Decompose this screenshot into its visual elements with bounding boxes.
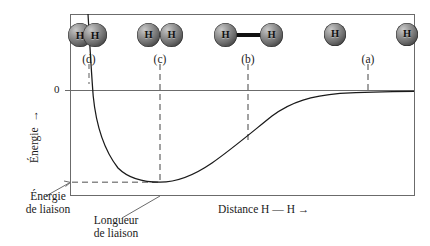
- y-axis-title: Énergie →: [28, 110, 41, 163]
- hydrogen-atom-icon: H: [396, 23, 418, 46]
- y-axis-zero-label: 0: [54, 83, 60, 96]
- atom-symbol: H: [221, 30, 229, 41]
- hydrogen-atom-icon: H: [324, 23, 346, 46]
- hydrogen-atom-icon: H: [160, 23, 183, 47]
- state-label-a: (a): [353, 53, 383, 66]
- figure-root: Énergie → 0 Distance H — H → Énergie de …: [0, 0, 430, 246]
- molecule-state-b: H H: [212, 22, 286, 48]
- x-axis-title: Distance H — H →: [218, 203, 309, 216]
- hydrogen-atom-icon: H: [137, 23, 160, 47]
- state-label-b: (b): [233, 53, 263, 66]
- hydrogen-atom-icon: H: [83, 23, 107, 47]
- molecule-state-far: H: [396, 22, 420, 48]
- molecule-state-c: H H: [134, 22, 186, 48]
- state-label-d: (d): [74, 53, 104, 66]
- atom-symbol: H: [331, 29, 339, 40]
- bond-length-annotation: Longueur de liaison: [62, 214, 170, 240]
- atom-symbol: H: [167, 30, 175, 41]
- atom-symbol: H: [144, 30, 152, 41]
- atom-symbol: H: [267, 30, 275, 41]
- atom-symbol: H: [91, 30, 100, 41]
- molecule-state-a: H: [324, 22, 348, 48]
- hydrogen-atom-icon: H: [214, 23, 237, 47]
- bond-energy-annotation: Énergie de liaison: [5, 190, 91, 216]
- bond-length-annotation-text: Longueur de liaison: [94, 214, 139, 239]
- bond-energy-annotation-text: Énergie de liaison: [26, 190, 70, 215]
- hydrogen-atom-icon: H: [260, 23, 283, 47]
- state-label-c: (c): [145, 53, 175, 66]
- atom-symbol: H: [403, 29, 411, 40]
- molecule-state-d: H H: [68, 22, 110, 48]
